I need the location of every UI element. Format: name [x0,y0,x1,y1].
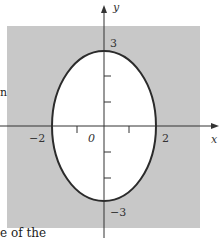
y-axis-label: y [112,1,120,14]
y-tick-label-neg3: −3 [110,206,126,219]
y-axis-arrow-icon [101,5,107,13]
side-text-fragment: n [0,86,7,99]
origin-label: 0 [88,132,95,145]
caption-fragment: e of the [0,226,46,238]
x-axis-arrow-icon [211,123,219,129]
plot-canvas: y x 3 −3 −2 2 0 [0,0,223,238]
x-tick-label-2: 2 [162,132,169,145]
y-tick-label-3: 3 [110,37,117,50]
x-tick-label-neg2: −2 [29,132,45,145]
x-axis-label: x [211,133,218,146]
